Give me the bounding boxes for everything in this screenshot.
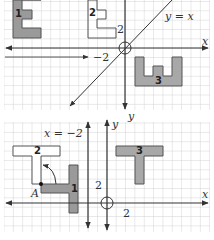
bottom-figure-3-label: 3 bbox=[136, 145, 143, 156]
bottom-figure-2-label: 2 bbox=[34, 145, 41, 156]
bottom-dimension-label-x: 2 bbox=[123, 207, 130, 220]
top-line-label: y = x bbox=[164, 10, 194, 23]
point-a-label: A bbox=[30, 187, 39, 200]
point-a bbox=[39, 182, 43, 186]
top-figure-3-label: 3 bbox=[155, 75, 162, 86]
bottom-figure-1-label: 1 bbox=[71, 183, 78, 194]
bottom-y-axis-label: y bbox=[111, 118, 119, 131]
top-translation-label: −2 bbox=[93, 51, 109, 64]
bottom-x-axis-label: x bbox=[202, 188, 209, 201]
top-y-axis-label-partial: y bbox=[127, 110, 135, 123]
top-x-axis-label: x bbox=[202, 35, 209, 48]
top-figure-1-label: 1 bbox=[15, 8, 22, 19]
top-figure-2-label: 2 bbox=[89, 7, 96, 18]
bottom-line-label: x = −2 bbox=[44, 127, 83, 140]
bottom-graph: 2 1 3 A x = −2 y x 2 2 bbox=[4, 118, 210, 232]
top-graph: 1 2 3 2 −2 y = x x y bbox=[4, 0, 210, 123]
top-dimension-label: 2 bbox=[117, 23, 124, 36]
transformations-diagram: 1 2 3 2 −2 y = x x y 2 1 3 A x = −2 y x … bbox=[0, 0, 214, 240]
bottom-dimension-label-y: 2 bbox=[95, 179, 102, 192]
